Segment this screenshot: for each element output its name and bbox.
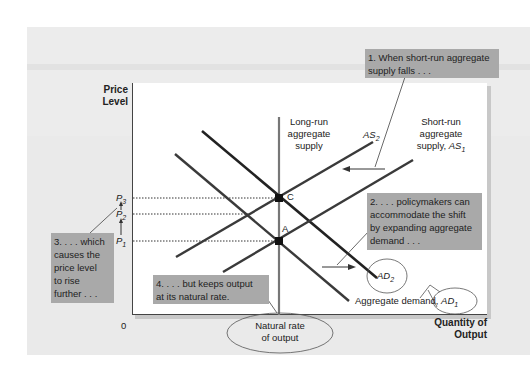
- note1-leader: [375, 77, 405, 167]
- p2-label: P2: [116, 208, 126, 224]
- x-axis-label: Quantity ofOutput: [420, 317, 487, 341]
- note-2: 2. . . . policymakers canaccommodate the…: [367, 193, 482, 250]
- ad2-curve: [202, 131, 377, 278]
- point-a-marker: [275, 237, 283, 245]
- point-c-marker: [275, 194, 283, 202]
- note3-leader: [90, 208, 117, 233]
- note-3: 3. . . . whichcauses the price levelto r…: [51, 233, 114, 303]
- y-axis-label: PriceLevel: [90, 84, 128, 108]
- note-4: 4. . . . but keeps outputat its natural …: [153, 275, 269, 304]
- note-1: 1. When short-run aggregatesupply falls …: [365, 49, 499, 78]
- as-shift-arrowhead-icon: [342, 166, 350, 172]
- point-a-label: A: [282, 223, 288, 235]
- note4-leader: [268, 300, 277, 313]
- as2-label: AS2: [363, 129, 380, 145]
- origin-label: 0: [121, 320, 126, 332]
- as2-curve: [176, 142, 373, 257]
- ad-shift-arrowhead-icon: [348, 264, 356, 270]
- lras-label: Long-runaggregatesupply: [283, 116, 335, 152]
- p1-label: P1: [116, 235, 126, 251]
- ad2-label: AD2: [377, 270, 394, 286]
- natural-rate-label: Natural rateof output: [240, 320, 320, 344]
- as1-label: Short-runaggregate supply, AS1: [406, 116, 476, 156]
- point-c-label: C: [287, 191, 294, 203]
- p3-label: P3: [116, 192, 126, 208]
- ad1-label: Aggregate demand, AD1: [355, 295, 458, 311]
